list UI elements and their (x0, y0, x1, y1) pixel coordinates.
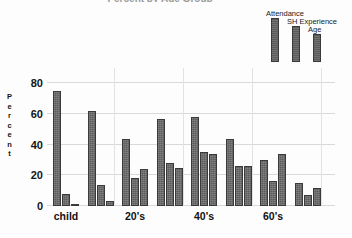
y-axis-title: P e r c e n t (4, 92, 15, 159)
y-axis-title-letter: t (4, 149, 15, 159)
bar[interactable] (269, 181, 277, 206)
y-axis-title-letter: c (4, 121, 15, 131)
bar[interactable] (235, 166, 243, 206)
y-axis-title-letter: r (4, 111, 15, 121)
bar[interactable] (226, 139, 234, 206)
bar[interactable] (166, 163, 174, 206)
y-axis-ticks: 020406080 (17, 68, 43, 206)
legend-label: Age (308, 25, 321, 34)
y-axis-title-letter: P (4, 92, 15, 102)
gridline-vertical (183, 68, 184, 206)
bar-group (53, 68, 80, 206)
legend-swatch (313, 34, 321, 62)
x-tick-label: 60's (263, 210, 283, 222)
bar[interactable] (191, 117, 199, 206)
x-tick-label: 40's (194, 210, 214, 222)
plot-area (47, 68, 335, 206)
bar[interactable] (304, 195, 312, 206)
y-tick-label: 40 (21, 139, 43, 150)
bar[interactable] (62, 194, 70, 206)
legend-swatch (271, 18, 279, 62)
bar[interactable] (209, 154, 217, 206)
y-tick-label: 60 (21, 109, 43, 120)
gridline-vertical (321, 68, 322, 206)
chart-legend: AttendanceSH ExperienceAge (266, 6, 352, 62)
bar[interactable] (122, 139, 130, 206)
gridline-vertical (252, 68, 253, 206)
chart-title: Percent by Age Group (60, 0, 260, 2)
bar[interactable] (175, 168, 183, 206)
bar-chart: Percent by Age Group P e r c e n t 02040… (0, 0, 352, 238)
bar[interactable] (278, 154, 286, 206)
y-tick-label: 0 (21, 201, 43, 212)
bar[interactable] (260, 160, 268, 206)
bar[interactable] (295, 183, 303, 206)
gridline-vertical (114, 68, 115, 206)
bar[interactable] (53, 91, 61, 206)
bar[interactable] (97, 185, 105, 206)
bar[interactable] (106, 201, 114, 206)
bar-group (191, 68, 218, 206)
bar[interactable] (88, 111, 96, 206)
bar[interactable] (71, 204, 79, 206)
bar-group (122, 68, 149, 206)
bar[interactable] (131, 178, 139, 206)
bar-group (295, 68, 322, 206)
y-tick-label: 20 (21, 170, 43, 181)
bar-group (260, 68, 287, 206)
legend-swatch (292, 26, 300, 62)
x-tick-label: child (54, 210, 79, 222)
y-axis-title-letter: e (4, 130, 15, 140)
bar[interactable] (313, 188, 321, 206)
bar-group (157, 68, 184, 206)
y-axis-title-letter: n (4, 140, 15, 150)
bar[interactable] (244, 166, 252, 206)
bar[interactable] (200, 152, 208, 206)
y-axis-title-letter: e (4, 102, 15, 112)
bar-group (88, 68, 115, 206)
y-tick-label: 80 (21, 78, 43, 89)
x-tick-label: 20's (125, 210, 145, 222)
bar[interactable] (157, 119, 165, 206)
bar-group (226, 68, 253, 206)
bar[interactable] (140, 169, 148, 206)
